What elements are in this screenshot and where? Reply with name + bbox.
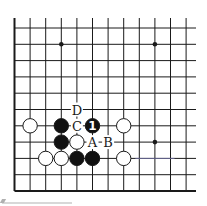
- white-stone: [39, 151, 53, 165]
- grid-lines: [15, 18, 197, 191]
- position-label-a: A: [87, 135, 98, 150]
- white-stone: [70, 135, 84, 149]
- white-stone: [23, 119, 37, 133]
- star-point-icon: [153, 140, 158, 145]
- white-stone: [117, 119, 131, 133]
- white-stone: [117, 151, 131, 165]
- black-stone: [85, 151, 99, 165]
- position-label-b: B: [103, 135, 113, 150]
- black-stone: [70, 151, 84, 165]
- star-point-icon: [153, 42, 158, 47]
- position-label-d: D: [72, 103, 82, 118]
- white-stone: [54, 151, 68, 165]
- black-stone: [54, 135, 68, 149]
- black-stone: [54, 119, 68, 133]
- move-number: 1: [88, 119, 96, 133]
- star-point-icon: [59, 42, 64, 47]
- go-board: DCAB 1: [0, 0, 207, 206]
- scan-artifact-line: [2, 202, 72, 204]
- position-label-c: C: [72, 119, 82, 134]
